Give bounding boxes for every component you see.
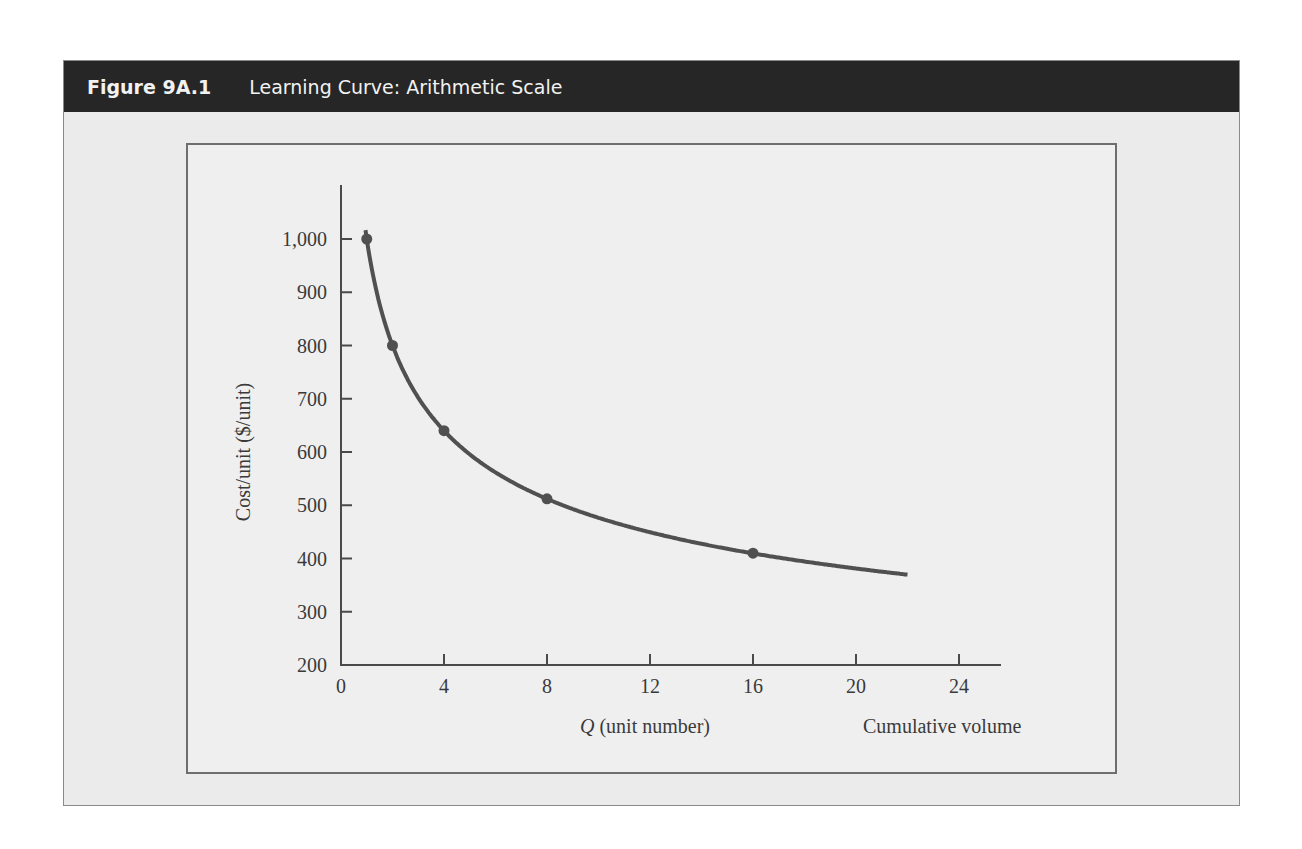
y-axis-title: Cost/unit ($/unit)	[232, 383, 255, 521]
x-tick-label: 8	[542, 675, 552, 697]
x-tick-label: 0	[336, 675, 346, 697]
x-axis-unit: (unit number)	[594, 715, 710, 738]
x-tick-label: 20	[846, 675, 866, 697]
x-tick-label: 16	[743, 675, 763, 697]
data-point-marker	[542, 493, 553, 504]
data-points	[361, 234, 758, 559]
y-tick-label: 200	[297, 654, 327, 676]
y-tick-label: 500	[297, 494, 327, 516]
y-tick-label: 300	[297, 601, 327, 623]
x-tick-label: 12	[640, 675, 660, 697]
y-axis: 2003004005006007008009001,000	[282, 185, 352, 676]
x-axis: 04812162024	[336, 654, 1001, 697]
y-tick-label: 400	[297, 548, 327, 570]
y-tick-label: 900	[297, 281, 327, 303]
y-tick-label: 800	[297, 335, 327, 357]
y-tick-label: 700	[297, 388, 327, 410]
data-point-marker	[439, 425, 450, 436]
x-tick-label: 4	[439, 675, 449, 697]
x-axis-secondary-title: Cumulative volume	[863, 715, 1021, 737]
data-point-marker	[387, 340, 398, 351]
data-point-marker	[748, 548, 759, 559]
learning-curve-chart: 2003004005006007008009001,000 0481216202…	[0, 0, 1302, 849]
x-axis-title: Q (unit number)	[580, 715, 710, 738]
learning-curve-line	[366, 230, 908, 574]
x-tick-label: 24	[949, 675, 969, 697]
x-axis-variable: Q	[580, 715, 595, 737]
y-tick-label: 600	[297, 441, 327, 463]
y-tick-label: 1,000	[282, 228, 327, 250]
data-point-marker	[361, 234, 372, 245]
